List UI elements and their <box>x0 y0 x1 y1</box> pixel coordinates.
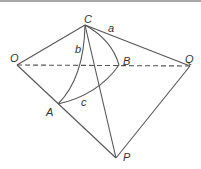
label-arc-a: a <box>108 23 114 34</box>
edge-OQ-dashed <box>17 65 190 66</box>
label-O: O <box>10 53 19 64</box>
edge-OP <box>17 65 116 158</box>
arc-c-AB <box>58 65 119 104</box>
label-B: B <box>123 56 130 67</box>
label-C: C <box>84 14 92 25</box>
label-P: P <box>123 152 130 163</box>
label-arc-c: c <box>81 97 87 108</box>
edge-QP <box>116 66 190 158</box>
label-Q: Q <box>185 54 194 65</box>
arc-b-CA <box>58 25 85 104</box>
geometry-figure <box>0 0 201 169</box>
diagram-canvas: C O Q B A P a b c <box>0 0 201 169</box>
label-arc-b: b <box>75 44 81 55</box>
edge-CQ <box>85 25 190 66</box>
label-A: A <box>46 107 53 118</box>
